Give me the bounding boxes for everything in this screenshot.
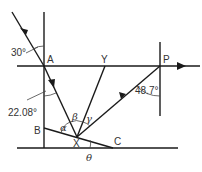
label-alpha: α — [60, 122, 67, 133]
label-gamma: γ — [86, 113, 92, 124]
arrow-incident-icon — [20, 28, 28, 35]
ray-diagram: 30° A Y P 22.08° 48.7° B X C α β γ θ — [0, 0, 202, 172]
label-48: 48.7° — [135, 85, 158, 96]
arc-theta — [90, 140, 91, 148]
arc-22 — [44, 93, 56, 96]
label-theta: θ — [86, 152, 92, 163]
arrow-surface-icon — [177, 62, 186, 70]
point-c: C — [114, 136, 121, 147]
normal-ray-xy — [77, 66, 105, 137]
label-30: 30° — [11, 47, 26, 58]
arrow-refracted-icon — [48, 79, 55, 88]
point-b: B — [34, 125, 41, 136]
leader-22 — [27, 91, 46, 100]
point-a: A — [47, 54, 54, 65]
point-p: P — [163, 54, 170, 65]
label-22: 22.08° — [8, 107, 37, 118]
point-x: X — [73, 138, 80, 149]
label-beta: β — [71, 111, 78, 122]
reflected-ray-xp — [77, 66, 160, 137]
point-y: Y — [101, 54, 108, 65]
